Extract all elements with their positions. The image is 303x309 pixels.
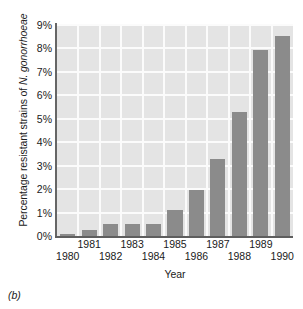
x-axis-tick-label: 1990 [271, 251, 294, 262]
gridline-vertical [142, 25, 144, 236]
bar [275, 36, 290, 236]
gridline-vertical [185, 25, 187, 236]
y-axis-tick-label: 1% [37, 208, 52, 218]
x-axis-tick-label: 1985 [163, 239, 186, 250]
x-axis-tick-label: 1980 [56, 251, 79, 262]
x-axis-tick-labels: 1980198119821983198419851986198719881989… [0, 238, 303, 264]
x-axis-tick-label: 1983 [120, 239, 143, 250]
gridline-vertical [77, 25, 79, 236]
gridline-vertical [249, 25, 251, 236]
x-axis-tick-label: 1989 [249, 239, 272, 250]
gridline-vertical [163, 25, 165, 236]
bar [125, 224, 140, 236]
plot-area [57, 25, 293, 236]
bar [253, 50, 268, 236]
bar [103, 224, 118, 236]
bar [146, 224, 161, 236]
gridline-horizontal [57, 24, 293, 26]
y-axis-tick-label: 9% [37, 20, 52, 30]
y-axis-tick-label: 4% [37, 137, 52, 147]
y-axis-tick-label: 2% [37, 184, 52, 194]
figure-caption: (b) [8, 289, 21, 301]
gridline-vertical [99, 25, 101, 236]
y-axis-tick-label: 6% [37, 90, 52, 100]
bar [232, 112, 247, 236]
x-axis-tick-label: 1987 [206, 239, 229, 250]
bar [167, 210, 182, 236]
bar [210, 159, 225, 236]
gridline-vertical [228, 25, 230, 236]
figure-container: Percentage resistant strains of N. gonor… [0, 0, 303, 309]
x-axis-tick-label: 1981 [77, 239, 100, 250]
x-axis-title: Year [57, 268, 293, 280]
y-axis-tick-label: 5% [37, 114, 52, 124]
x-axis-tick-label: 1984 [142, 251, 165, 262]
y-axis-tick-label: 8% [37, 43, 52, 53]
x-axis-tick-label: 1982 [99, 251, 122, 262]
x-axis-tick-label: 1988 [228, 251, 251, 262]
y-axis-tick-label: 7% [37, 67, 52, 77]
gridline-vertical [206, 25, 208, 236]
bar [189, 190, 204, 236]
y-axis-tick-labels: 0%1%2%3%4%5%6%7%8%9% [24, 18, 55, 243]
y-axis-tick-label: 3% [37, 161, 52, 171]
gridline-vertical [120, 25, 122, 236]
gridline-vertical [271, 25, 273, 236]
x-axis-tick-label: 1986 [185, 251, 208, 262]
